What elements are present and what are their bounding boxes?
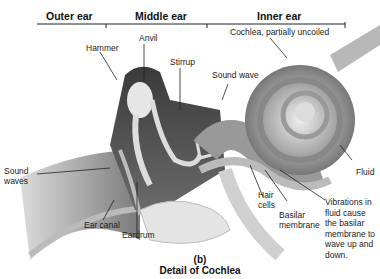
ear-diagram: Outer ear Middle ear Inner ear Hammer An… [0, 0, 380, 279]
label-cochlea: Cochlea, partially uncoiled [230, 27, 329, 37]
label-ear-canal: Ear canal [84, 220, 120, 230]
label-hammer: Hammer [86, 43, 119, 53]
label-sound-waves-line2: waves [4, 176, 29, 186]
label-sound-waves: Sound waves [4, 166, 29, 186]
nerve [330, 25, 380, 72]
label-vibrations: Vibrations in fluid cause the basilar me… [325, 197, 375, 260]
section-middle-ear: Middle ear [135, 10, 187, 22]
label-sound-wave: Sound wave [212, 70, 259, 80]
section-inner-ear: Inner ear [257, 10, 301, 22]
label-sound-waves-line1: Sound [4, 166, 29, 176]
label-hair-cells-line1: Hair [258, 190, 275, 200]
vibrations-line: fluid cause [325, 208, 375, 219]
ear-anatomy-illustration [0, 0, 380, 279]
vibrations-line: wave up and [325, 239, 375, 250]
label-hair-cells: Hair cells [258, 190, 275, 210]
section-outer-ear: Outer ear [46, 10, 93, 22]
panel-label: (b) [140, 254, 260, 265]
vibrations-line: down. [325, 250, 375, 261]
label-basilar-membrane: Basilar membrane [279, 210, 320, 230]
vibrations-line: membrane to [325, 229, 375, 240]
label-stirrup: Stirrup [170, 57, 195, 67]
vibrations-line: the basilar [325, 218, 375, 229]
label-eardrum: Eardrum [122, 230, 155, 240]
label-fluid: Fluid [356, 167, 374, 177]
label-hair-cells-line2: cells [258, 200, 275, 210]
vibrations-line: Vibrations in [325, 197, 375, 208]
label-anvil: Anvil [139, 33, 157, 43]
figure-title: Detail of Cochlea [140, 265, 260, 276]
figure-caption: (b) Detail of Cochlea [140, 254, 260, 276]
label-basilar-line1: Basilar [279, 210, 320, 220]
hammer-bone [127, 82, 153, 118]
label-basilar-line2: membrane [279, 220, 320, 230]
